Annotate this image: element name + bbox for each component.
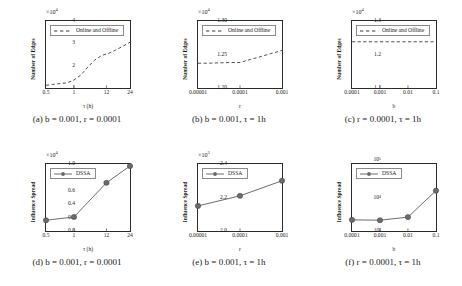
legend-label: Online and Offline bbox=[228, 28, 270, 34]
legend-marker-icon bbox=[206, 171, 224, 177]
series-online-offline bbox=[46, 42, 130, 85]
legend-c: Online and Offline bbox=[356, 25, 430, 36]
legend-label: DSSA bbox=[76, 171, 90, 177]
legend-f: DSSA bbox=[356, 168, 402, 179]
y-axis-multiplier: ×104 bbox=[46, 8, 58, 15]
data-point bbox=[433, 188, 438, 193]
x-tick: 0.01 bbox=[403, 90, 413, 96]
data-point bbox=[71, 214, 76, 219]
y-axis-multiplier: ×103 bbox=[198, 151, 210, 158]
legend-line-icon bbox=[360, 28, 378, 34]
x-tick: 0.1 bbox=[433, 90, 440, 96]
x-tick: 0.001 bbox=[374, 90, 387, 96]
legend-label: DSSA bbox=[382, 171, 396, 177]
x-tick: 0.0001 bbox=[232, 233, 247, 239]
x-tick: 1 bbox=[73, 233, 76, 239]
plot-e: ×103 Influence Spread r 2.0 2.2 2.4 0.00… bbox=[167, 150, 291, 254]
x-axis-label: τ (h) bbox=[45, 104, 131, 110]
data-point bbox=[349, 217, 354, 222]
x-tick: 12 bbox=[104, 233, 110, 239]
y-axis-label: Number of Edges bbox=[337, 16, 343, 102]
caption-e: (e) b = 0.001, τ = 1h bbox=[192, 258, 265, 268]
axes-b: 1.20 1.25 1.30 0.00001 0.0001 0.001 Onli… bbox=[197, 20, 283, 89]
legend-a: Online and Offline bbox=[50, 25, 124, 36]
caption-a: (a) b = 0.001, r = 0.0001 bbox=[33, 115, 121, 125]
panel-b: ×104 Number of Edges r 1.20 1.25 1.30 0.… bbox=[154, 0, 304, 143]
legend-d: DSSA bbox=[50, 168, 96, 179]
x-tick: 24 bbox=[127, 233, 133, 239]
data-point bbox=[195, 203, 200, 208]
plot-d: ×104 Influence Spread τ (h) 0.0 0.2 0.4 … bbox=[15, 150, 139, 254]
panel-d: ×104 Influence Spread τ (h) 0.0 0.2 0.4 … bbox=[0, 143, 154, 286]
panel-f: Influence Spread b 10³ 10⁴ 10⁵ 0.0001 0.… bbox=[304, 143, 462, 286]
data-point bbox=[127, 163, 132, 168]
x-tick: 0.001 bbox=[374, 233, 387, 239]
axes-c: 1.1 1.2 1.3 0.0001 0.001 0.01 0.1 bbox=[351, 20, 437, 89]
series-dssa bbox=[352, 191, 436, 221]
legend-line-icon bbox=[54, 28, 72, 34]
axes-a: 1 2 3 4 0.5 1 12 24 bbox=[45, 20, 131, 89]
x-tick: 0.001 bbox=[276, 90, 289, 96]
x-tick: 0.0001 bbox=[344, 90, 359, 96]
legend-label: Online and Offline bbox=[382, 28, 424, 34]
figure-grid: ×104 Number of Edges τ (h) 1 2 3 4 0.5 1… bbox=[0, 0, 462, 286]
series-dssa-markers bbox=[195, 178, 284, 208]
x-tick: 0.01 bbox=[403, 233, 413, 239]
y-axis-label: Number of Edges bbox=[31, 16, 37, 102]
axes-f: 10³ 10⁴ 10⁵ 0.0001 0.001 0.01 0.1 bbox=[351, 163, 437, 232]
axes-e: 2.0 2.2 2.4 0.00001 0.0001 0.001 bbox=[197, 163, 283, 232]
x-tick: 1 bbox=[73, 90, 76, 96]
plot-c: ×104 Number of Edges b 1.1 1.2 1.3 0.000… bbox=[321, 7, 445, 111]
data-point bbox=[279, 178, 284, 183]
x-axis-label: r bbox=[197, 247, 283, 253]
x-tick: 0.5 bbox=[43, 90, 50, 96]
plot-b: ×104 Number of Edges r 1.20 1.25 1.30 0.… bbox=[167, 7, 291, 111]
x-tick: 0.00001 bbox=[189, 90, 207, 96]
x-axis-label: b bbox=[351, 104, 437, 110]
caption-c: (c) r = 0.0001, τ = 1h bbox=[345, 115, 421, 125]
legend-e: DSSA bbox=[202, 168, 248, 179]
x-tick: 0.0001 bbox=[344, 233, 359, 239]
data-point bbox=[43, 218, 48, 223]
x-tick: 24 bbox=[127, 90, 133, 96]
x-tick: 0.5 bbox=[43, 233, 50, 239]
x-axis-label: τ (h) bbox=[45, 247, 131, 253]
x-tick: 12 bbox=[104, 90, 110, 96]
legend-b: Online and Offline bbox=[202, 25, 276, 36]
panel-c: ×104 Number of Edges b 1.1 1.2 1.3 0.000… bbox=[304, 0, 462, 143]
caption-f: (f) r = 0.0001, τ = 1h bbox=[345, 258, 420, 268]
y-axis-multiplier: ×104 bbox=[46, 151, 58, 158]
caption-d: (d) b = 0.001, r = 0.0001 bbox=[33, 258, 122, 268]
x-tick-marks bbox=[380, 228, 408, 231]
x-tick: 0.00001 bbox=[189, 233, 207, 239]
x-tick: 0.001 bbox=[276, 233, 289, 239]
x-tick: 0.0001 bbox=[232, 90, 247, 96]
data-point bbox=[104, 180, 109, 185]
plot-f: Influence Spread b 10³ 10⁴ 10⁵ 0.0001 0.… bbox=[321, 150, 445, 254]
data-point bbox=[237, 193, 242, 198]
legend-line-icon bbox=[206, 28, 224, 34]
caption-b: (b) b = 0.001, τ = 1h bbox=[192, 115, 266, 125]
y-axis-label: Influence Spread bbox=[31, 159, 37, 245]
x-tick-marks bbox=[74, 85, 107, 88]
data-point bbox=[405, 215, 410, 220]
x-tick-marks bbox=[380, 85, 408, 88]
series-dssa-markers bbox=[349, 188, 438, 223]
y-axis-label: Influence Spread bbox=[337, 159, 343, 245]
y-axis-multiplier: ×104 bbox=[198, 8, 210, 15]
legend-label: Online and Offline bbox=[76, 28, 118, 34]
legend-label: DSSA bbox=[228, 171, 242, 177]
x-axis-label: r bbox=[197, 104, 283, 110]
x-tick: 0.1 bbox=[433, 233, 440, 239]
y-axis-multiplier: ×104 bbox=[352, 8, 364, 15]
y-tick: 10⁵ bbox=[373, 157, 381, 163]
series-online-offline bbox=[198, 50, 282, 63]
x-axis-label: b bbox=[351, 247, 437, 253]
plot-a: ×104 Number of Edges τ (h) 1 2 3 4 0.5 1… bbox=[15, 7, 139, 111]
legend-marker-icon bbox=[54, 171, 72, 177]
x-tick-marks bbox=[74, 228, 107, 231]
panel-e: ×103 Influence Spread r 2.0 2.2 2.4 0.00… bbox=[154, 143, 304, 286]
legend-marker-icon bbox=[360, 171, 378, 177]
data-point bbox=[377, 218, 382, 223]
axes-d: 0.0 0.2 0.4 0.6 0.8 1.0 0.5 1 12 24 bbox=[45, 163, 131, 232]
